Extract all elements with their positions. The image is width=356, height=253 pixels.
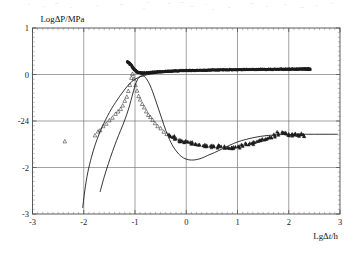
derivative-data-point — [125, 95, 129, 99]
log-log-derivative-plot: -3-2-1012310-24-2-3LogΔP/MPaLgΔt/h — [0, 0, 356, 253]
derivative-data-point — [149, 115, 153, 119]
derivative-data-series — [63, 72, 306, 150]
axis-titles: LogΔP/MPaLgΔt/h — [41, 14, 339, 242]
x-tick-label: -1 — [131, 217, 138, 227]
x-tick-label: 3 — [338, 217, 342, 227]
derivative-data-point — [162, 130, 166, 134]
scan-speck — [55, 3, 59, 4]
x-tick-label: 2 — [287, 217, 291, 227]
derivative-data-point — [93, 133, 97, 137]
scan-speck — [70, 7, 72, 8]
scan-speck — [120, 4, 124, 5]
y-tick-label: -2 — [22, 163, 29, 173]
derivative-data-point — [127, 89, 131, 93]
scan-speck — [205, 4, 207, 5]
scan-speck — [146, 2, 149, 3]
y-tick-label: 0 — [25, 70, 29, 80]
scan-speck — [330, 3, 333, 4]
derivative-data-point — [63, 139, 67, 143]
scan-speck — [190, 6, 194, 7]
scan-noise — [28, 2, 333, 10]
y-tick-label: -24 — [18, 116, 30, 126]
scan-speck — [250, 3, 254, 4]
tick-labels: -3-2-1012310-24-2-3 — [18, 23, 342, 227]
derivative-data-point — [135, 89, 139, 93]
y-axis-title: LogΔP/MPa — [41, 14, 85, 24]
y-tick-label: -3 — [22, 209, 29, 219]
scan-speck — [228, 7, 231, 8]
derivative-data-point — [147, 113, 151, 117]
derivative-data-point — [123, 99, 127, 103]
scan-speck — [316, 5, 318, 6]
derivative-data-point — [121, 104, 125, 108]
derivative-data-point — [144, 109, 148, 113]
derivative-data-point — [138, 98, 142, 102]
y-tick-label: 1 — [25, 23, 29, 33]
derivative-data-point — [131, 72, 135, 76]
derivative-data-point — [119, 107, 123, 111]
derivative-data-point — [137, 94, 141, 98]
x-tick-label: 0 — [184, 217, 188, 227]
derivative-data-point — [153, 121, 157, 125]
scan-speck — [143, 8, 145, 9]
x-axis-title: LgΔt/h — [313, 231, 338, 241]
grid-lines — [33, 28, 341, 214]
derivative-data-point — [276, 130, 279, 133]
derivative-data-point — [105, 122, 109, 126]
scan-speck — [28, 4, 30, 5]
scan-speck — [266, 6, 268, 7]
x-tick-label: -3 — [29, 217, 36, 227]
scan-speck — [96, 5, 99, 6]
scan-speck — [180, 2, 184, 3]
scan-speck — [300, 7, 304, 8]
derivative-data-point — [111, 116, 115, 120]
scan-speck — [42, 6, 45, 7]
scan-speck — [284, 4, 287, 5]
scan-speck — [168, 3, 171, 4]
derivative-data-point — [142, 105, 146, 109]
x-tick-label: -2 — [80, 217, 87, 227]
pressure-data-series — [126, 60, 311, 74]
derivative-data-point — [140, 102, 144, 106]
x-tick-label: 1 — [235, 217, 239, 227]
chart-container: -3-2-1012310-24-2-3LogΔP/MPaLgΔt/h — [0, 0, 356, 253]
derivative-data-point — [159, 126, 163, 130]
scan-speck — [212, 9, 214, 10]
